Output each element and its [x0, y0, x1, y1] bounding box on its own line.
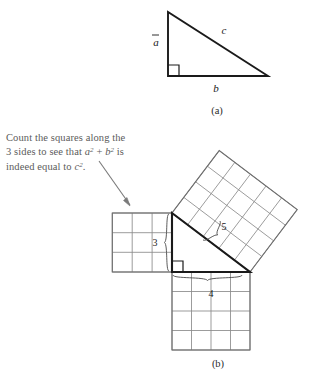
panel-b-triangle-group — [172, 213, 250, 272]
leg-a-square-grid — [112, 213, 172, 272]
figure-canvas: a b c — [0, 0, 325, 377]
leg-a-square-outline — [112, 213, 172, 272]
count-squares-annotation: Count the squares along the 3 sides to s… — [6, 131, 186, 173]
triangle-outline-b — [172, 213, 250, 272]
annotation-line-2-post: is — [114, 146, 124, 157]
dimension-4-label: 4 — [209, 288, 214, 299]
dimension-4-group: 4 — [173, 275, 242, 299]
right-angle-marker-a — [168, 65, 179, 76]
annotation-plus: + — [94, 146, 105, 157]
panel-a-label: (a) — [197, 105, 237, 116]
brace-4 — [173, 275, 242, 281]
annotation-line-3-pre: indeed equal to — [6, 161, 74, 172]
annotation-line-3-post: . — [83, 161, 86, 172]
triangle-outline-a — [168, 12, 268, 76]
hypotenuse-c-label: c — [222, 24, 227, 36]
annotation-line-1: Count the squares along the — [6, 132, 125, 143]
panel-b-label: (b) — [198, 358, 238, 369]
hypotenuse-square-grid — [172, 151, 297, 272]
annotation-line-2-pre: 3 sides to see that — [6, 146, 85, 157]
panel-a-triangle-group: a b c — [152, 12, 268, 94]
dimension-5-label: 5 — [222, 221, 227, 232]
annotation-arrow-head — [124, 198, 131, 207]
dimension-5-group: 5 — [203, 221, 227, 240]
right-angle-marker-b — [172, 261, 183, 272]
leg-a-label: a — [153, 36, 159, 48]
dimension-3-group: 3 — [153, 214, 170, 271]
square-on-leg-a-3x3 — [112, 213, 172, 272]
leg-b-square-grid — [172, 272, 250, 350]
brace-3 — [165, 214, 170, 271]
square-on-hypotenuse-5x5 — [172, 151, 297, 272]
pythagorean-theorem-figure: a b c — [0, 0, 325, 377]
dimension-3-label: 3 — [153, 237, 158, 248]
leg-b-label: b — [213, 82, 219, 94]
square-on-leg-b-4x4 — [172, 272, 250, 350]
